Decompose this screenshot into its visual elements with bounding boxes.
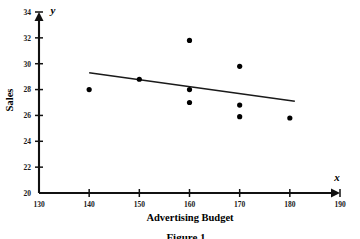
x-tick-label-190: 190 bbox=[334, 200, 346, 209]
y-axis-variable: y bbox=[49, 4, 56, 16]
x-tick-label-150: 150 bbox=[134, 200, 146, 209]
y-tick-label-26: 26 bbox=[24, 111, 32, 120]
y-tick-label-28: 28 bbox=[24, 85, 32, 94]
data-point-0 bbox=[87, 87, 92, 92]
regression-line bbox=[89, 73, 295, 101]
y-tick-label-22: 22 bbox=[24, 163, 32, 172]
data-point-4 bbox=[187, 100, 192, 105]
x-axis-arrowhead bbox=[331, 189, 340, 198]
x-tick-label-130: 130 bbox=[33, 200, 45, 209]
x-tick-label-180: 180 bbox=[284, 200, 296, 209]
data-point-6 bbox=[237, 102, 242, 107]
x-tick-label-140: 140 bbox=[84, 200, 96, 209]
y-tick-label-24: 24 bbox=[24, 137, 32, 146]
data-point-7 bbox=[237, 114, 242, 119]
y-tick-label-32: 32 bbox=[24, 34, 32, 43]
x-axis-label: Advertising Budget bbox=[146, 212, 234, 223]
figure-caption: Figure 1 bbox=[166, 231, 205, 239]
scatter-plot: 130140150160170180190 2022242628303234 A… bbox=[0, 0, 360, 239]
x-tick-labels: 130140150160170180190 bbox=[33, 200, 346, 209]
y-axis-arrowhead bbox=[35, 12, 44, 21]
y-tick-labels: 2022242628303234 bbox=[24, 8, 32, 198]
data-points bbox=[87, 38, 293, 121]
y-axis-label: Sales bbox=[4, 89, 15, 112]
y-tick-label-30: 30 bbox=[24, 60, 32, 69]
x-tick-label-160: 160 bbox=[184, 200, 196, 209]
data-point-8 bbox=[287, 115, 292, 120]
figure-container: 130140150160170180190 2022242628303234 A… bbox=[0, 0, 360, 239]
data-point-5 bbox=[237, 64, 242, 69]
data-point-3 bbox=[187, 87, 192, 92]
y-tick-label-34: 34 bbox=[24, 8, 32, 17]
trend-line bbox=[89, 73, 295, 101]
y-tick-label-20: 20 bbox=[24, 189, 32, 198]
x-tick-label-170: 170 bbox=[234, 200, 246, 209]
x-axis-variable: x bbox=[333, 171, 340, 183]
data-point-1 bbox=[137, 77, 142, 82]
data-point-2 bbox=[187, 38, 192, 43]
